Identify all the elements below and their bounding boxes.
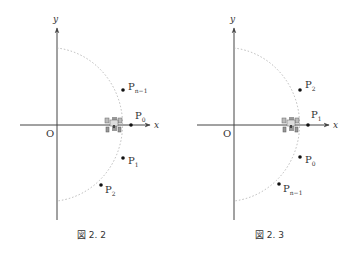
point-marker	[99, 183, 103, 187]
y-axis-label: y	[229, 14, 236, 24]
point-marker	[129, 123, 133, 127]
point-label: P2	[105, 184, 116, 197]
figure-caption: 図 2. 2	[77, 230, 106, 240]
point-label: Pn−1	[283, 183, 302, 196]
x-axis-label: x	[154, 120, 159, 130]
point-label: P1	[128, 155, 139, 168]
point-marker	[277, 182, 281, 186]
point-label: Pn−1	[128, 81, 147, 94]
figure-2-3: y x O P2 P1 P0 Pn−1 図 2. 3	[197, 14, 338, 240]
origin-label: O	[46, 128, 54, 139]
figure-caption: 図 2. 3	[255, 230, 284, 240]
point-marker	[298, 155, 302, 159]
point-marker	[121, 156, 125, 160]
figure-2-2: y x O Pn−1 P0 P1 P2 図 2. 2	[20, 14, 159, 240]
point-label: P2	[305, 79, 316, 92]
point-label: P0	[305, 154, 316, 167]
point-marker	[298, 88, 302, 92]
point-marker	[306, 123, 310, 127]
point-marker	[121, 88, 125, 92]
point-label: P0	[135, 110, 146, 123]
origin-label: O	[223, 128, 231, 139]
y-axis-label: y	[52, 14, 59, 24]
point-label: P1	[311, 109, 322, 122]
x-axis-label: x	[333, 120, 338, 130]
